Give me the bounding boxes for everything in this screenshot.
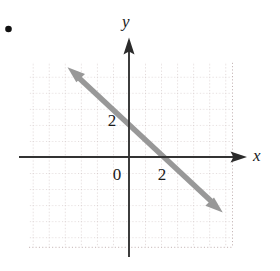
graph-canvas: x y 2 0 2 [0, 0, 280, 271]
origin-label: 0 [113, 165, 122, 184]
y-axis-label: y [120, 12, 130, 31]
x-axis-label: x [252, 146, 261, 165]
coordinate-plane-figure: x y 2 0 2 [0, 0, 280, 271]
bullet-marker-icon [5, 26, 12, 33]
y-tick-label-2: 2 [108, 111, 117, 130]
grid [29, 63, 233, 248]
grid-area [29, 63, 233, 248]
x-tick-label-2: 2 [158, 165, 167, 184]
